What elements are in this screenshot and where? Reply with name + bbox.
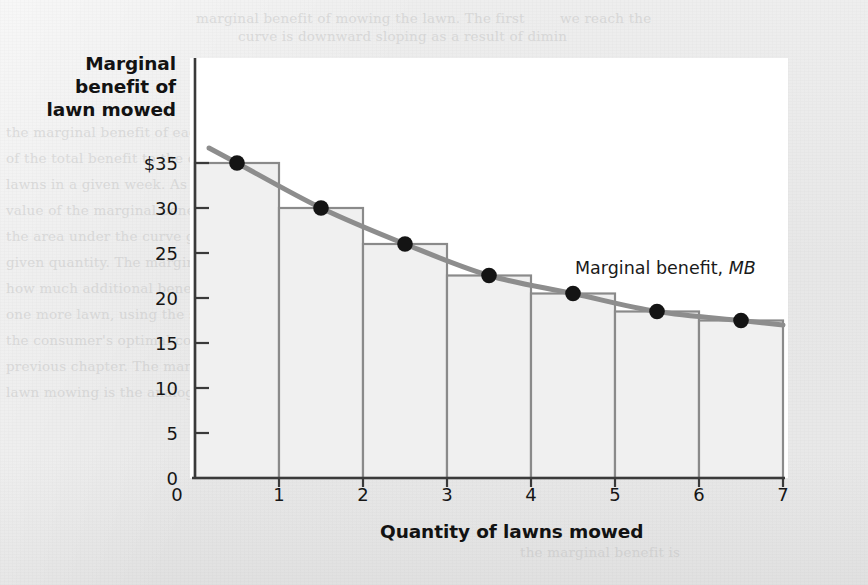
curve-label-symbol: MB [729, 258, 756, 278]
data-point [229, 155, 245, 171]
data-point [649, 304, 665, 320]
bar [699, 321, 783, 479]
data-point [481, 268, 497, 284]
data-point [565, 286, 581, 302]
bar-group [195, 163, 783, 478]
bar [195, 163, 279, 478]
bar [363, 244, 447, 478]
curve-label-text: Marginal benefit, [575, 258, 723, 278]
data-point [733, 313, 749, 329]
curve-label: Marginal benefit, MB [575, 258, 756, 278]
bar [279, 208, 363, 478]
marginal-benefit-figure: Marginal benefit of lawn mowed Quantity … [0, 0, 868, 585]
data-point [397, 236, 413, 252]
bar [531, 294, 615, 479]
bar [447, 276, 531, 479]
bar [615, 312, 699, 479]
chart-graphics [0, 0, 868, 585]
data-point [313, 200, 329, 216]
